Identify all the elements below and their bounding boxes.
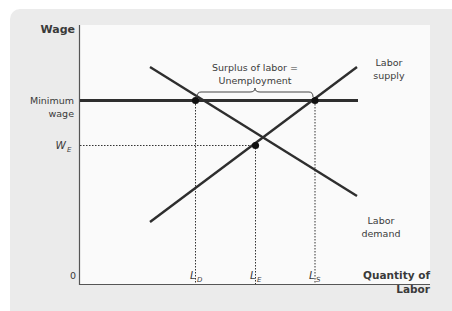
min-wage-label-2: wage [49, 108, 75, 119]
ls-subscript: S [316, 276, 321, 284]
ld-subscript: D [197, 276, 203, 284]
origin-label: 0 [70, 270, 76, 281]
min-wage-label-1: Minimum [30, 95, 74, 106]
demand-at-min-wage-point [192, 97, 199, 104]
demand-label-1: Labor [368, 215, 395, 226]
le-subscript: E [257, 276, 262, 284]
demand-label-2: demand [361, 228, 400, 239]
ls-label: L [309, 269, 315, 281]
x-axis-label-1: Quantity of [363, 269, 430, 281]
surplus-label-1: Surplus of labor = [212, 62, 298, 73]
supply-label-2: supply [373, 70, 405, 81]
le-label: L [250, 269, 256, 281]
equilibrium-point [252, 142, 259, 149]
ld-label: L [190, 269, 196, 281]
surplus-label-2: Unemployment [218, 75, 291, 86]
supply-at-min-wage-point [311, 97, 318, 104]
supply-label-1: Labor [376, 57, 403, 68]
y-axis-label: Wage [41, 23, 76, 36]
x-axis-label-2: Labor [396, 283, 431, 295]
labor-market-chart: Wage Minimum wage W E 0 L D L E L S Quan… [0, 0, 452, 311]
we-subscript: E [67, 146, 72, 154]
we-label: W [56, 139, 67, 151]
